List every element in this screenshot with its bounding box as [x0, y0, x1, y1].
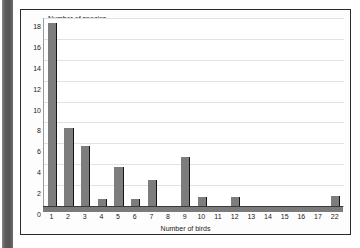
y-tick-label: 16 — [33, 43, 41, 50]
bar — [114, 167, 123, 206]
x-tick-label: 8 — [166, 213, 170, 220]
bar — [81, 146, 90, 206]
x-tick-label: 16 — [297, 213, 305, 220]
bar — [231, 197, 240, 206]
y-tick-label: 12 — [33, 85, 41, 92]
y-tick-label: 0 — [37, 211, 41, 218]
x-tick-label: 11 — [214, 213, 221, 220]
y-tick-label: 14 — [33, 64, 41, 71]
x-tick-label: 6 — [133, 213, 137, 220]
y-tick-label: 10 — [33, 106, 41, 113]
y-axis-ticks: 024681012141618 — [25, 18, 41, 206]
x-tick-label: 10 — [197, 213, 205, 220]
chart-figure: Number of species 024681012141618 123456… — [20, 9, 351, 235]
x-tick-label: 22 — [331, 213, 339, 220]
plot-area — [43, 18, 344, 206]
x-axis-ticks: 123456789101112131415161722 — [43, 213, 343, 225]
x-axis-rule — [43, 206, 343, 212]
y-tick-label: 8 — [37, 127, 41, 134]
x-tick-label: 14 — [264, 213, 272, 220]
x-axis-title: Number of birds — [21, 225, 350, 232]
bar — [64, 128, 73, 206]
x-tick-label: 13 — [247, 213, 255, 220]
y-tick-label: 4 — [37, 169, 41, 176]
y-tick-label: 18 — [33, 23, 41, 30]
x-tick-label: 3 — [83, 213, 87, 220]
x-tick-label: 15 — [281, 213, 289, 220]
page-edge-strip — [2, 0, 13, 248]
x-tick-label: 4 — [99, 213, 103, 220]
plot-wrapper: Number of species 024681012141618 123456… — [21, 10, 350, 234]
bar — [148, 180, 157, 206]
x-tick-label: 9 — [183, 213, 187, 220]
bar-series — [44, 18, 344, 206]
x-tick-label: 5 — [116, 213, 120, 220]
bar — [331, 196, 340, 206]
x-tick-label: 7 — [149, 213, 153, 220]
bar — [98, 199, 107, 206]
x-tick-label: 2 — [66, 213, 70, 220]
bar — [48, 23, 57, 206]
bar — [198, 197, 207, 206]
bar — [181, 157, 190, 206]
y-tick-label: 2 — [37, 190, 41, 197]
y-tick-label: 6 — [37, 148, 41, 155]
x-tick-label: 17 — [314, 213, 322, 220]
x-tick-label: 1 — [49, 213, 53, 220]
x-tick-label: 12 — [231, 213, 239, 220]
bar — [131, 199, 140, 206]
